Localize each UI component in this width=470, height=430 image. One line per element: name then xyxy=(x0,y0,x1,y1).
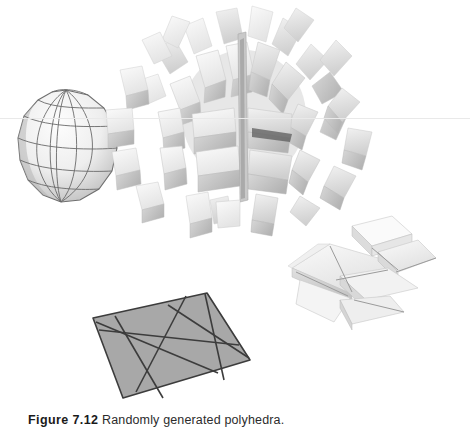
quad-face xyxy=(93,293,250,398)
spiky-central-spine xyxy=(238,32,248,202)
figure-caption-text: Randomly generated polyhedra. xyxy=(102,413,284,427)
figure-page: Figure 7.12 Randomly generated polyhedra… xyxy=(0,0,470,430)
figure-caption-label: Figure 7.12 xyxy=(28,413,98,427)
extruded-plane-fragments xyxy=(288,216,436,330)
extruded-spiky-polyhedron xyxy=(106,6,372,238)
wireframe-sphere xyxy=(18,90,117,202)
subdivided-quad-plane xyxy=(93,293,250,398)
figure-caption: Figure 7.12 Randomly generated polyhedra… xyxy=(28,413,458,428)
figure-illustration xyxy=(0,0,470,430)
